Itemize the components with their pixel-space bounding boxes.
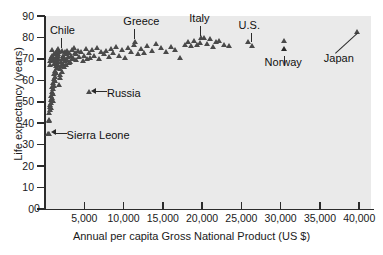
y-tick-40 xyxy=(37,122,45,124)
annotation-label-us: U.S. xyxy=(239,20,260,31)
data-point xyxy=(226,43,232,48)
data-point xyxy=(96,56,102,61)
data-point xyxy=(207,36,213,41)
x-tick-5,000 xyxy=(84,202,86,209)
data-point xyxy=(50,91,56,96)
annotation-label-russia: Russia xyxy=(107,88,141,99)
data-point xyxy=(128,49,134,54)
data-point xyxy=(132,39,138,44)
data-point xyxy=(50,98,56,103)
data-point xyxy=(281,38,287,43)
x-tick-10,000 xyxy=(123,202,125,209)
x-tick-25,000 xyxy=(241,202,243,209)
annotation-label-japan: Japan xyxy=(324,53,354,64)
data-point xyxy=(210,44,216,49)
y-tick-20 xyxy=(37,165,45,167)
data-point xyxy=(204,41,210,46)
annotation-label-sierraleone: Sierra Leone xyxy=(67,130,130,141)
y-axis-title: Life expectancy (years) xyxy=(12,14,24,194)
data-point xyxy=(149,48,155,53)
data-point xyxy=(135,51,141,56)
annotation-label-italy: Italy xyxy=(189,13,209,24)
data-point xyxy=(122,55,128,60)
annotation-leader-us xyxy=(250,33,251,42)
data-point xyxy=(59,48,65,53)
data-point xyxy=(56,82,62,87)
data-point xyxy=(188,43,194,48)
data-point xyxy=(249,43,255,48)
data-point xyxy=(59,69,65,74)
data-point xyxy=(172,47,178,52)
annotation-arrowhead-sierraleone xyxy=(51,129,56,135)
y-tick-50 xyxy=(37,101,45,103)
y-tick-90 xyxy=(37,15,45,17)
y-tick-80 xyxy=(37,37,45,39)
x-axis-title: Annual per capita Gross National Product… xyxy=(0,230,383,242)
annotation-label-chile: Chile xyxy=(50,25,75,36)
annotation-leader-norway xyxy=(283,56,284,65)
x-tick-30,000 xyxy=(280,202,282,209)
y-axis-line xyxy=(44,16,46,210)
annotation-arrowhead-norway xyxy=(281,46,287,51)
data-point xyxy=(116,53,122,58)
x-tick-15,000 xyxy=(162,202,164,209)
data-point xyxy=(119,47,125,52)
x-tick-40,000 xyxy=(358,202,360,209)
x-axis-line xyxy=(44,209,374,211)
data-point xyxy=(163,49,169,54)
x-tick-35,000 xyxy=(319,202,321,209)
data-point xyxy=(48,105,54,110)
data-point xyxy=(198,35,204,40)
data-point xyxy=(46,118,52,123)
annotation-label-greece: Greece xyxy=(123,16,159,27)
x-tick-20,000 xyxy=(201,202,203,209)
data-point xyxy=(57,75,63,80)
data-point xyxy=(144,43,150,48)
annotation-arrowhead-russia xyxy=(91,88,96,94)
y-tick-10 xyxy=(37,187,45,189)
annotation-leader-chile xyxy=(61,38,62,48)
y-tick-30 xyxy=(37,144,45,146)
x-tick-label-40,000: 40,000 xyxy=(329,213,383,224)
data-point xyxy=(197,40,203,45)
data-point xyxy=(177,55,183,60)
data-point xyxy=(141,50,147,55)
scatter-chart-figure: 0102030405060708090 05,00010,00015,00020… xyxy=(0,0,383,255)
data-point xyxy=(113,44,119,49)
y-tick-60 xyxy=(37,80,45,82)
y-tick-70 xyxy=(37,58,45,60)
